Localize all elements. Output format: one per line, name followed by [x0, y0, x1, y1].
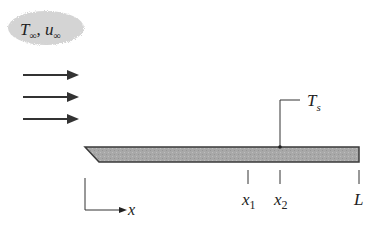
- x-axis-label: x: [127, 201, 135, 218]
- surface-temp-leader: Ts: [278, 91, 321, 149]
- position-x2: x2: [273, 190, 288, 212]
- freestream-cloud: T∞, u∞: [8, 11, 84, 45]
- x-axis: x: [85, 178, 135, 218]
- arrow-icon: [23, 92, 79, 102]
- position-markers: [248, 170, 359, 184]
- flow-arrows: [23, 70, 79, 124]
- position-x1: x1: [241, 190, 256, 212]
- surface-temp-label: Ts: [307, 91, 321, 113]
- position-L: L: [353, 190, 363, 209]
- flat-plate-diagram: T∞, u∞ Ts x x1 x2 L: [0, 0, 383, 229]
- flat-plate: [85, 147, 359, 162]
- arrow-icon: [23, 114, 79, 124]
- arrow-icon: [23, 70, 79, 80]
